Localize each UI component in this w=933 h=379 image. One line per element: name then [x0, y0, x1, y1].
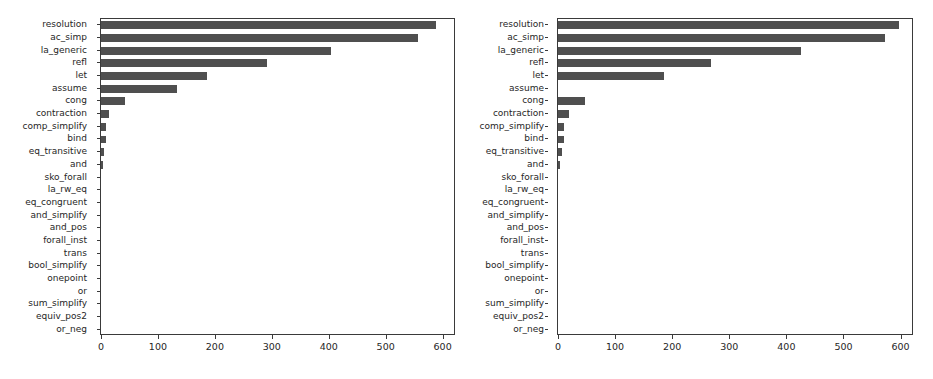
- x-tick-label: 0: [98, 341, 104, 352]
- bar: [101, 97, 125, 105]
- x-tick-label: 200: [206, 341, 224, 352]
- y-tick-label: or: [535, 286, 544, 296]
- y-tick-mark: [545, 100, 549, 101]
- y-tick-label: and_pos: [50, 222, 87, 232]
- y-tick-label: or_neg: [513, 324, 544, 334]
- x-tick-mark: [729, 335, 730, 339]
- y-tick-label: la_rw_eq: [48, 184, 87, 194]
- y-tick-label: comp_simplify: [480, 121, 544, 131]
- y-tick-label: onepoint: [504, 273, 544, 283]
- y-tick-mark: [545, 164, 549, 165]
- chart-panel-right: resolutionac_simpla_genericreflletassume…: [466, 0, 932, 379]
- y-tick-label: or: [78, 286, 87, 296]
- y-tick-label: let: [532, 70, 544, 80]
- y-tick-label: forall_inst: [500, 235, 544, 245]
- x-tick-label: 600: [892, 341, 910, 352]
- y-tick-mark: [545, 303, 549, 304]
- x-tick-label: 600: [434, 341, 452, 352]
- bar: [101, 110, 109, 118]
- bar: [558, 161, 560, 169]
- y-tick-mark: [545, 126, 549, 127]
- y-tick-label: bind: [67, 133, 87, 143]
- y-tick-label: la_rw_eq: [505, 184, 544, 194]
- bar: [101, 34, 418, 42]
- y-tick-label: contraction: [36, 108, 87, 118]
- y-tick-label: and: [527, 159, 544, 169]
- bar: [558, 21, 899, 29]
- y-axis-labels-right: resolutionac_simpla_genericreflletassume…: [457, 18, 552, 335]
- y-tick-label: eq_transitive: [29, 146, 87, 156]
- y-tick-label: trans: [64, 248, 87, 258]
- y-tick-label: eq_congruent: [25, 197, 87, 207]
- y-tick-label: cong: [65, 95, 87, 105]
- figure-two-bar-charts: resolutionac_simpla_genericreflletassume…: [0, 0, 933, 379]
- x-tick-label: 200: [663, 341, 681, 352]
- y-tick-mark: [545, 240, 549, 241]
- y-tick-label: and_simplify: [488, 210, 544, 220]
- x-tick-mark: [329, 335, 330, 339]
- chart-panel-left: resolutionac_simpla_genericreflletassume…: [0, 0, 466, 379]
- y-tick-label: trans: [521, 248, 544, 258]
- y-tick-mark: [545, 88, 549, 89]
- y-tick-label: assume: [509, 83, 544, 93]
- y-tick-label: bool_simplify: [485, 260, 544, 270]
- y-tick-label: la_generic: [498, 45, 544, 55]
- x-tick-mark: [158, 335, 159, 339]
- bar: [101, 72, 207, 80]
- bar: [558, 34, 885, 42]
- bar: [101, 59, 267, 67]
- bar: [558, 148, 562, 156]
- y-tick-label: onepoint: [47, 273, 87, 283]
- y-tick-label: ac_simp: [50, 32, 87, 42]
- bar: [101, 123, 106, 131]
- y-tick-label: and: [70, 159, 87, 169]
- x-tick-label: 100: [149, 341, 167, 352]
- x-tick-label: 500: [377, 341, 395, 352]
- bar: [558, 72, 664, 80]
- y-tick-mark: [545, 316, 549, 317]
- x-tick-label: 300: [263, 341, 281, 352]
- y-tick-label: refl: [72, 57, 87, 67]
- y-tick-mark: [545, 278, 549, 279]
- bar: [558, 47, 801, 55]
- y-tick-mark: [545, 253, 549, 254]
- y-tick-label: equiv_pos2: [493, 311, 544, 321]
- y-tick-label: eq_transitive: [486, 146, 544, 156]
- y-tick-label: bind: [524, 133, 544, 143]
- x-tick-label: 300: [720, 341, 738, 352]
- y-tick-mark: [545, 215, 549, 216]
- y-tick-mark: [545, 151, 549, 152]
- bar: [558, 123, 564, 131]
- y-tick-label: or_neg: [56, 324, 87, 334]
- x-tick-mark: [672, 335, 673, 339]
- y-tick-label: sum_simplify: [28, 298, 87, 308]
- bars-left: [101, 19, 454, 334]
- x-tick-label: 400: [777, 341, 795, 352]
- y-tick-label: ac_simp: [507, 32, 544, 42]
- y-tick-mark: [545, 291, 549, 292]
- y-tick-label: resolution: [42, 19, 87, 29]
- y-tick-mark: [545, 113, 549, 114]
- y-tick-label: sko_forall: [502, 172, 544, 182]
- y-tick-mark: [545, 202, 549, 203]
- plot-area-left: [100, 18, 455, 335]
- y-tick-label: assume: [52, 83, 87, 93]
- y-tick-label: sum_simplify: [485, 298, 544, 308]
- y-tick-label: sko_forall: [45, 172, 87, 182]
- y-tick-mark: [545, 24, 549, 25]
- y-axis-labels-left: resolutionac_simpla_genericreflletassume…: [0, 18, 95, 335]
- bar: [101, 85, 177, 93]
- bar: [558, 97, 585, 105]
- x-tick-mark: [843, 335, 844, 339]
- y-tick-mark: [545, 177, 549, 178]
- x-tick-label: 500: [834, 341, 852, 352]
- y-tick-label: forall_inst: [43, 235, 87, 245]
- y-tick-mark: [545, 227, 549, 228]
- x-tick-mark: [272, 335, 273, 339]
- x-tick-mark: [101, 335, 102, 339]
- bar: [101, 161, 103, 169]
- y-tick-label: refl: [529, 57, 544, 67]
- y-tick-label: la_generic: [41, 45, 87, 55]
- bar: [558, 136, 564, 144]
- x-tick-mark: [901, 335, 902, 339]
